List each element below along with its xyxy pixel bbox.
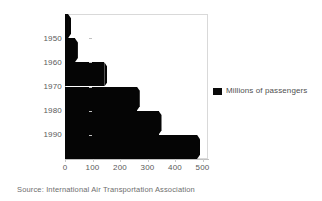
x-tick-label-100: 100 (86, 163, 100, 172)
bar-1970 (65, 87, 137, 111)
bar-1960 (65, 62, 104, 86)
x-tick-label-200: 200 (113, 163, 127, 172)
x-tick-label-400: 400 (168, 163, 182, 172)
y-tick-mark-1990 (89, 135, 92, 136)
y-tick-label-1950: 1950 (34, 34, 62, 43)
bar-1990 (65, 135, 197, 159)
x-tick-mark-0 (65, 159, 66, 162)
bar-1945 (65, 14, 68, 38)
y-tick-mark-1980 (89, 111, 92, 112)
y-tick-label-1970: 1970 (34, 82, 62, 91)
chart-legend: Millions of passengers (213, 86, 307, 96)
x-tick-mark-100 (93, 159, 94, 162)
x-tick-mark-200 (120, 159, 121, 162)
bar-tip-bevel (75, 38, 78, 62)
x-tick-label-0: 0 (63, 163, 68, 172)
legend-label: Millions of passengers (226, 86, 307, 96)
x-tick-label-500: 500 (196, 163, 210, 172)
bar-tip-bevel (104, 62, 107, 86)
bar-1950 (65, 38, 75, 62)
bar-tip-bevel (137, 87, 140, 111)
bar-tip-bevel (159, 111, 162, 135)
y-tick-label-1960: 1960 (34, 58, 62, 67)
x-axis-line (65, 159, 209, 160)
bar-tip-bevel (197, 135, 200, 159)
x-tick-mark-500 (203, 159, 204, 162)
x-axis-ticks: 0100200300400500 (0, 163, 322, 175)
bar-series (65, 14, 208, 159)
x-tick-label-300: 300 (141, 163, 155, 172)
source-note: Source: International Air Transportation… (17, 185, 195, 195)
y-tick-label-1990: 1990 (34, 130, 62, 139)
y-tick-mark-1950 (89, 38, 92, 39)
y-tick-label-1980: 1980 (34, 106, 62, 115)
bar-1980 (65, 111, 159, 135)
legend-swatch-icon (213, 88, 222, 95)
y-tick-mark-1970 (89, 87, 92, 88)
chart-figure: 19501960197019801990 0100200300400500 Mi… (0, 0, 322, 201)
bar-tip-bevel (68, 14, 71, 38)
x-tick-mark-400 (175, 159, 176, 162)
y-axis-ticks: 19501960197019801990 (26, 14, 62, 159)
y-tick-mark-1960 (89, 62, 92, 63)
x-tick-mark-300 (148, 159, 149, 162)
